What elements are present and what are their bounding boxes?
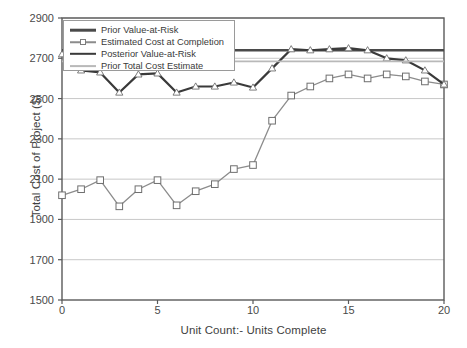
data-point-marker bbox=[345, 71, 352, 78]
data-point-marker bbox=[269, 117, 276, 124]
data-point-marker bbox=[326, 75, 333, 82]
data-point-marker bbox=[78, 186, 85, 193]
y-tick-label: 2900 bbox=[14, 12, 54, 24]
data-point-marker bbox=[59, 192, 66, 199]
data-point-marker bbox=[116, 203, 123, 210]
legend-label-prior-total-cost-estimate: Prior Total Cost Estimate bbox=[101, 61, 203, 72]
chart-legend: Prior Value-at-Risk Estimated Cost at Co… bbox=[63, 20, 235, 71]
data-point-marker bbox=[212, 181, 219, 188]
y-axis-title: Total Cost of Project ($) bbox=[30, 56, 42, 256]
x-tick-label: 10 bbox=[233, 304, 273, 316]
data-point-marker bbox=[383, 71, 390, 78]
x-tick-label: 15 bbox=[329, 304, 369, 316]
legend-label-prior-value-at-risk: Prior Value-at-Risk bbox=[101, 25, 178, 36]
legend-item-estimated-cost-at-completion: Estimated Cost at Completion bbox=[64, 36, 234, 48]
data-point-marker bbox=[307, 83, 314, 90]
data-point-marker bbox=[288, 92, 295, 99]
data-point-marker bbox=[97, 177, 104, 184]
legend-swatch-estimated-cost-at-completion bbox=[68, 37, 98, 48]
legend-label-estimated-cost-at-completion: Estimated Cost at Completion bbox=[101, 37, 224, 48]
y-tick-label: 1900 bbox=[14, 213, 54, 225]
data-point-marker bbox=[250, 162, 257, 169]
legend-item-prior-total-cost-estimate: Prior Total Cost Estimate bbox=[64, 60, 234, 72]
legend-swatch-prior-total-cost-estimate bbox=[68, 61, 98, 72]
x-tick-label: 0 bbox=[42, 304, 82, 316]
legend-label-posterior-value-at-risk: Posterior Value-at-Risk bbox=[101, 49, 196, 60]
data-point-marker bbox=[364, 75, 371, 82]
data-point-marker bbox=[403, 73, 410, 80]
y-tick-label: 2700 bbox=[14, 52, 54, 64]
data-point-marker bbox=[231, 166, 238, 173]
x-tick-label: 5 bbox=[138, 304, 178, 316]
y-tick-label: 2100 bbox=[14, 173, 54, 185]
legend-swatch-posterior-value-at-risk bbox=[68, 49, 98, 60]
data-point-marker bbox=[154, 177, 161, 184]
data-point-marker bbox=[173, 202, 180, 209]
y-tick-label: 1700 bbox=[14, 254, 54, 266]
y-tick-label: 2500 bbox=[14, 93, 54, 105]
x-tick-label: 20 bbox=[424, 304, 464, 316]
x-axis-title: Unit Count:- Units Complete bbox=[62, 324, 445, 336]
data-point-marker bbox=[422, 78, 429, 85]
data-point-marker bbox=[192, 188, 199, 195]
legend-swatch-prior-value-at-risk bbox=[68, 25, 98, 36]
legend-item-prior-value-at-risk: Prior Value-at-Risk bbox=[64, 24, 234, 36]
data-point-marker bbox=[135, 186, 142, 193]
y-tick-label: 2300 bbox=[14, 133, 54, 145]
legend-item-posterior-value-at-risk: Posterior Value-at-Risk bbox=[64, 48, 234, 60]
chart-container: Total Cost of Project ($) Unit Count:- U… bbox=[0, 0, 467, 348]
